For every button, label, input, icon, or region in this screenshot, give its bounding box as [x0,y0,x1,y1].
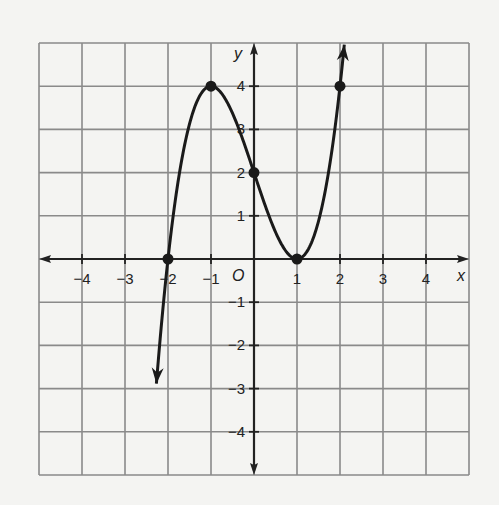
y-tick-label: 1 [237,207,245,224]
axes [39,43,469,475]
y-axis-label: y [233,45,243,62]
origin-label: O [232,267,244,284]
data-point [335,81,346,92]
x-tick-label: −3 [116,270,133,287]
function-curve [156,45,344,384]
x-axis-label: x [456,267,466,284]
y-tick-label: −3 [228,380,245,397]
data-point [163,254,174,265]
data-point [206,81,217,92]
x-tick-label: 4 [422,270,430,287]
data-point [249,167,260,178]
y-tick-label: −1 [228,293,245,310]
y-tick-label: −2 [228,336,245,353]
y-tick-label: 2 [237,164,245,181]
x-tick-label: 2 [336,270,344,287]
x-tick-label: −4 [73,270,90,287]
coordinate-plane: −4−3−2−11234−4−3−2−11234 x y O [0,0,499,505]
y-tick-label: 4 [237,77,245,94]
x-tick-label: 3 [379,270,387,287]
data-point [292,254,303,265]
x-tick-label: −1 [202,270,219,287]
y-tick-label: −4 [228,423,245,440]
x-tick-label: 1 [293,270,301,287]
